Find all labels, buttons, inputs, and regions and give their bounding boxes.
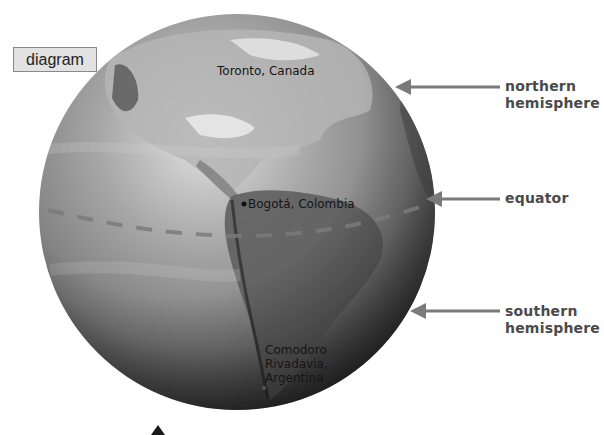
equator-label: equator [505, 190, 569, 207]
southern-label-line2: hemisphere [505, 320, 600, 337]
diagram-tag: diagram [13, 47, 97, 72]
northern-hemisphere-label: northern hemisphere [505, 78, 600, 112]
comodoro-line2: Rivadavia, [265, 357, 328, 371]
equator-label-text: equator [505, 190, 569, 207]
southern-hemisphere-label: southern hemisphere [505, 303, 600, 337]
bottom-pointer-icon [151, 425, 165, 435]
northern-hemisphere-arrow [395, 79, 500, 95]
comodoro-label: Comodoro Rivadavia, Argentina [265, 343, 328, 385]
equator-arrow [426, 191, 500, 207]
southern-hemisphere-arrow [410, 303, 500, 319]
diagram-tag-label: diagram [26, 51, 84, 68]
northern-label-line1: northern [505, 78, 600, 95]
bogota-marker [242, 202, 247, 207]
northern-label-line2: hemisphere [505, 95, 600, 112]
comodoro-line1: Comodoro [265, 343, 328, 357]
comodoro-line3: Argentina [265, 371, 328, 385]
toronto-label: Toronto, Canada [217, 64, 315, 78]
comodoro-marker [262, 386, 266, 390]
bogota-label: Bogotá, Colombia [248, 197, 355, 211]
southern-label-line1: southern [505, 303, 600, 320]
